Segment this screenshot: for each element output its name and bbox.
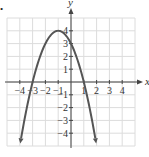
- y-axis-arrow-icon: [69, 8, 74, 14]
- y-tick-label: 1: [63, 64, 68, 75]
- y-tick-label: −2: [57, 102, 68, 113]
- y-tick-label: −1: [57, 89, 68, 100]
- y-tick-label: 2: [63, 51, 68, 62]
- parabola-graph: xy −4−3−2−11234−4−3−2−11234: [0, 0, 149, 157]
- y-tick-label: −4: [57, 128, 68, 139]
- x-axis-arrow-icon: [137, 80, 143, 85]
- y-axis-label: y: [67, 0, 73, 8]
- y-tick-label: 3: [63, 38, 68, 49]
- x-tick-label: −4: [14, 85, 25, 96]
- x-tick-label: 2: [94, 85, 99, 96]
- axes: xy: [5, 0, 149, 148]
- x-tick-label: 3: [107, 85, 112, 96]
- x-axis-label: x: [144, 75, 149, 87]
- y-tick-label: −3: [57, 115, 68, 126]
- x-tick-label: −2: [40, 85, 51, 96]
- x-tick-label: 4: [120, 85, 125, 96]
